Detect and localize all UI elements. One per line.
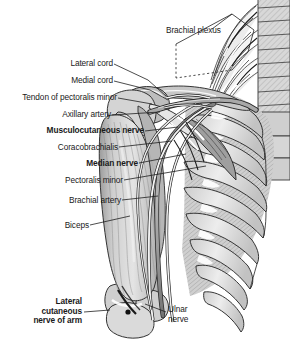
label-brachial-artery: Brachial artery (0, 196, 121, 206)
label-medial-cord: Medial cord (0, 76, 113, 86)
label-biceps: Biceps (0, 221, 89, 231)
label-lateral-cord: Lateral cord (0, 59, 113, 69)
label-pectoralis-minor: Pectoralis minor (0, 176, 123, 186)
label-axillary-artery: Axillary artery (0, 110, 111, 120)
anatomy-figure: Brachial plexus Lateral cord Medial cord… (0, 0, 290, 344)
label-tendon-of-pectoralis-minor: Tendon of pectoralis minor (0, 93, 117, 103)
label-lat-cut-line3: nerve of arm (0, 316, 82, 326)
label-ulnar-line2: nerve (168, 315, 228, 325)
anatomy-illustration (0, 0, 290, 344)
label-coracobrachialis: Coracobrachialis (0, 143, 118, 153)
label-brachial-plexus: Brachial plexus (166, 26, 221, 36)
label-musculocutaneous-nerve: Musculocutaneous nerve (0, 126, 144, 136)
label-median-nerve: Median nerve (0, 159, 138, 169)
label-ulnar-nerve: Ulnar nerve (168, 305, 228, 324)
label-lateral-cutaneous-nerve-of-arm: Lateral cutaneous nerve of arm (0, 297, 82, 326)
